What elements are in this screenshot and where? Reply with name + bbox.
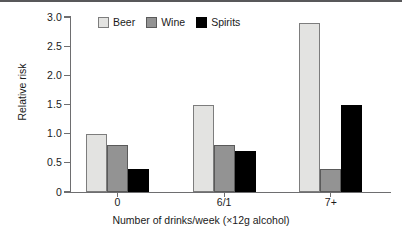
y-axis-tick-label-wrap: 1.5 (24, 99, 62, 110)
y-axis-tick-label: 0.5 (28, 157, 62, 168)
y-axis-tick-label: 2.0 (28, 70, 62, 81)
figure-bar-chart: 00.51.01.52.02.53.0 06/17+ BeerWineSpiri… (0, 0, 402, 238)
y-axis-tick-label-wrap: 1.0 (24, 128, 62, 139)
legend-label-spirits: Spirits (211, 17, 240, 28)
figure-top-rule (0, 0, 402, 2)
bar-spirits-0 (128, 169, 149, 192)
legend-swatch-beer-icon (98, 17, 109, 28)
y-axis-tick (64, 16, 70, 17)
bar-beer-61 (193, 105, 214, 193)
legend-entry-wine: Wine (146, 17, 185, 28)
y-axis-tick-label-wrap: 2.0 (24, 70, 62, 81)
bar-beer-0 (86, 134, 107, 192)
bar-spirits-7 (341, 105, 362, 193)
y-axis-tick-label: 1.5 (28, 99, 62, 110)
chart-legend: BeerWineSpirits (98, 17, 240, 28)
bar-wine-7 (320, 169, 341, 192)
bar-wine-61 (214, 145, 235, 192)
y-axis-title: Relative risk (16, 32, 28, 152)
x-axis-title: Number of drinks/week (×12g alcohol) (0, 214, 402, 226)
y-axis-tick (64, 46, 70, 47)
legend-label-wine: Wine (161, 17, 185, 28)
legend-entry-spirits: Spirits (196, 17, 240, 28)
y-axis-tick-label: 2.5 (28, 41, 62, 52)
y-axis-tick-label-wrap: 0.5 (24, 157, 62, 168)
legend-swatch-wine-icon (146, 17, 157, 28)
bar-spirits-61 (235, 151, 256, 192)
y-axis-tick (64, 133, 70, 134)
y-axis-tick-label-wrap: 0 (24, 187, 62, 198)
y-axis-tick-label: 0 (28, 187, 62, 198)
y-axis-tick (64, 104, 70, 105)
y-axis-tick-label-wrap: 3.0 (24, 12, 62, 23)
y-axis-tick-label: 1.0 (28, 128, 62, 139)
bar-wine-0 (107, 145, 128, 192)
y-axis-tick-label: 3.0 (28, 12, 62, 23)
legend-entry-beer: Beer (98, 17, 135, 28)
y-axis-tick (64, 162, 70, 163)
y-axis-tick-label-wrap: 2.5 (24, 41, 62, 52)
x-axis-tick-label: 6/1 (194, 197, 254, 209)
legend-label-beer: Beer (113, 17, 135, 28)
legend-swatch-spirits-icon (196, 17, 207, 28)
plot-area (71, 17, 391, 192)
y-axis-tick (64, 75, 70, 76)
x-axis-tick-label: 0 (88, 197, 148, 209)
x-axis-tick-label: 7+ (301, 197, 361, 209)
y-axis-tick (64, 191, 70, 192)
bar-beer-7 (299, 23, 320, 192)
